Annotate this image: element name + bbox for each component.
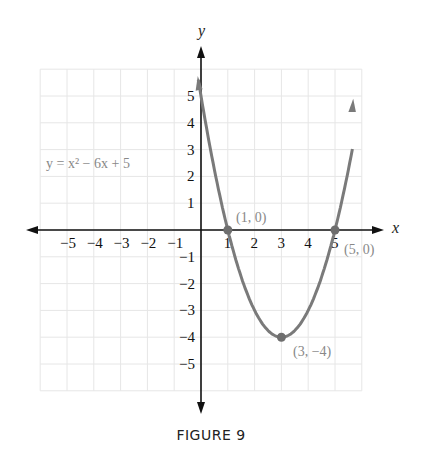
point-label-3-neg4: (3, −4) [293,344,332,360]
svg-text:5: 5 [187,88,195,104]
svg-text:3: 3 [277,235,285,251]
y-axis-label: y [196,22,206,40]
point-label-5-0: (5, 0) [344,242,375,258]
svg-text:−4: −4 [179,329,195,345]
svg-text:−5: −5 [60,235,76,251]
equation-label: y = x² − 6x + 5 [46,156,130,171]
svg-text:−1: −1 [179,249,195,265]
point-label-1-0: (1, 0) [236,210,267,226]
svg-text:−3: −3 [179,302,195,318]
svg-text:2: 2 [251,235,259,251]
svg-text:−5: −5 [179,356,195,372]
svg-text:−2: −2 [140,235,156,251]
x-axis-label: x [391,219,399,236]
parabola-graph: −5−4−3−2−11234554321−1−2−3−4−5 y x y = x… [0,0,422,461]
parabola-curve [196,76,356,337]
svg-text:−3: −3 [114,235,130,251]
figure-caption: FIGURE 9 [0,427,422,443]
svg-text:4: 4 [304,235,312,251]
svg-text:−2: −2 [179,276,195,292]
svg-text:4: 4 [187,115,195,131]
svg-text:1: 1 [187,195,195,211]
svg-text:2: 2 [187,168,195,184]
svg-text:−4: −4 [87,235,103,251]
svg-text:3: 3 [187,142,195,158]
